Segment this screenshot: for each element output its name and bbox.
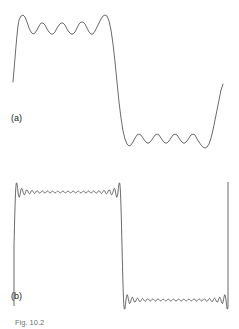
panel-b-plot bbox=[0, 170, 239, 310]
chart-panel-a bbox=[0, 0, 239, 170]
panel-label-b: (b) bbox=[11, 292, 22, 301]
waveform-many-harmonics bbox=[14, 182, 228, 309]
panel-label-a: (a) bbox=[11, 114, 22, 123]
panel-a-plot bbox=[0, 0, 239, 170]
chart-panel-b bbox=[0, 170, 239, 310]
waveform-few-harmonics bbox=[13, 15, 223, 148]
figure-caption: Fig. 10.2 bbox=[15, 319, 44, 327]
figure-container: (a) (b) Fig. 10.2 bbox=[0, 0, 239, 329]
